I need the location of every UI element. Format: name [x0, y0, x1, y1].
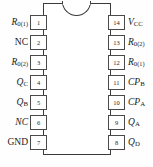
- pin-label-qb-5: QB: [17, 95, 28, 110]
- pin-number-10[interactable]: 10: [108, 95, 125, 110]
- pin-number-4[interactable]: 4: [30, 75, 47, 90]
- pin-number-12[interactable]: 12: [108, 55, 125, 70]
- pin-label-r01-1: R0(1): [11, 15, 28, 30]
- pin-number-3[interactable]: 3: [30, 55, 47, 70]
- pin-number-6[interactable]: 6: [30, 115, 47, 130]
- pin-number-8[interactable]: 8: [108, 135, 125, 150]
- pin-label-nc-2: NC: [15, 35, 28, 50]
- pin-label-nc-6: NC: [15, 115, 28, 130]
- pin-number-7[interactable]: 7: [30, 135, 47, 150]
- pin-label-r02-13: R0(2): [128, 35, 145, 50]
- chip-notch-mask: [63, 2, 90, 5]
- pin-label-qd-8: QD: [128, 135, 140, 150]
- ic-pinout-diagram: 1R0(1)2NC3R0(2)4QC5QB6NC7GND14VCC13R0(2)…: [0, 0, 153, 167]
- pin-label-r02-3: R0(2): [11, 55, 28, 70]
- pin-number-5[interactable]: 5: [30, 95, 47, 110]
- pin-label-cpa-10: CPA: [128, 95, 145, 110]
- pin-number-2[interactable]: 2: [30, 35, 47, 50]
- pin-number-14[interactable]: 14: [108, 15, 125, 30]
- pin-label-qc-4: QC: [17, 75, 28, 90]
- pin-label-vcc-14: VCC: [128, 15, 143, 30]
- pin-label-gnd-7: GND: [7, 135, 28, 150]
- pin-number-1[interactable]: 1: [30, 15, 47, 30]
- pin-number-13[interactable]: 13: [108, 35, 125, 50]
- chip-body-outline: [43, 3, 111, 155]
- pin-label-qa-9: QA: [128, 115, 140, 130]
- pin-number-9[interactable]: 9: [108, 115, 125, 130]
- pin-label-r01-12: R0(1): [128, 55, 145, 70]
- pin-label-cpb-11: CPB: [128, 75, 145, 90]
- pin-number-11[interactable]: 11: [108, 75, 125, 90]
